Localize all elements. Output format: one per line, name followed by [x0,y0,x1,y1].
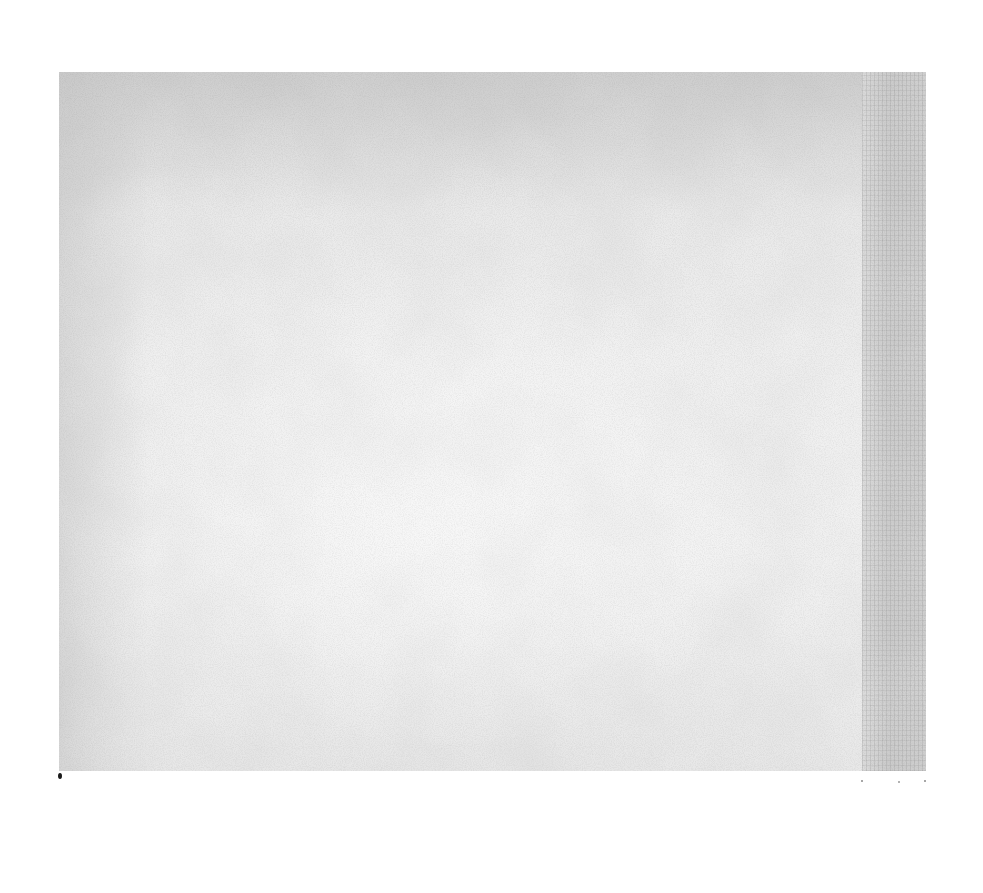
scan-speck [861,780,863,782]
paper-sheet [59,72,926,771]
page-canvas [0,0,983,893]
scan-speck [924,780,926,782]
scan-speck [898,781,900,783]
paper-edge-strip [862,72,926,771]
scan-speck [58,773,62,779]
paper-left-shading [59,72,149,771]
paper-top-shading [59,72,926,212]
